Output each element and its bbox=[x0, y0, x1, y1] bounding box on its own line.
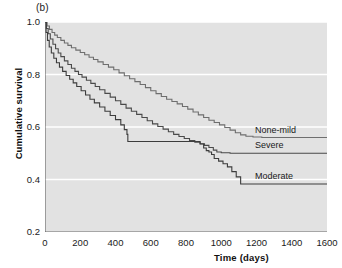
series-label-none-mild: None-mild bbox=[255, 125, 296, 135]
series-label-moderate: Moderate bbox=[255, 171, 293, 181]
x-axis-label: Time (days) bbox=[214, 252, 269, 263]
series-label-severe: Severe bbox=[255, 140, 284, 150]
y-tick-label: 0.4 bbox=[14, 174, 40, 185]
y-tick-label: 0.2 bbox=[14, 226, 40, 237]
panel-label: (b) bbox=[36, 2, 49, 13]
x-tick-label: 1200 bbox=[240, 237, 274, 248]
y-tick-label: 0.8 bbox=[14, 69, 40, 80]
x-tick-label: 0 bbox=[28, 237, 62, 248]
y-tick-label: 1.0 bbox=[14, 16, 40, 27]
x-tick-label: 400 bbox=[99, 237, 133, 248]
x-tick-label: 200 bbox=[63, 237, 97, 248]
y-tick-label: 0.6 bbox=[14, 121, 40, 132]
x-tick-label: 1400 bbox=[275, 237, 309, 248]
x-tick-label: 600 bbox=[134, 237, 168, 248]
survival-curve-moderate bbox=[45, 22, 327, 184]
x-tick-label: 1000 bbox=[204, 237, 238, 248]
x-tick-label: 1600 bbox=[310, 237, 342, 248]
x-tick-label: 800 bbox=[169, 237, 203, 248]
